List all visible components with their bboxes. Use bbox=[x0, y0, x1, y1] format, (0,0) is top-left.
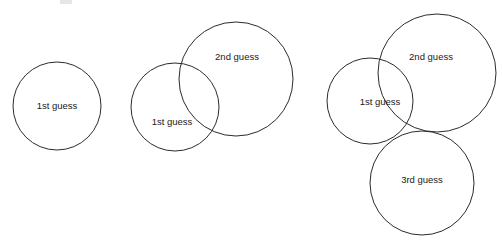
label-1st-guess-group1: 1st guess bbox=[37, 100, 78, 111]
guess-circles-diagram: 1st guess 1st guess 2nd guess 1st guess … bbox=[0, 0, 502, 242]
label-2nd-guess-group2: 2nd guess bbox=[215, 51, 259, 62]
diagram-background bbox=[0, 0, 502, 242]
label-3rd-guess-group3: 3rd guess bbox=[401, 174, 443, 185]
label-2nd-guess-group3: 2nd guess bbox=[409, 51, 453, 62]
diagram-canvas: 1st guess 1st guess 2nd guess 1st guess … bbox=[0, 0, 502, 242]
cropped-text-fragment-icon bbox=[60, 0, 72, 4]
label-1st-guess-group2: 1st guess bbox=[152, 116, 193, 127]
label-1st-guess-group3: 1st guess bbox=[360, 96, 401, 107]
